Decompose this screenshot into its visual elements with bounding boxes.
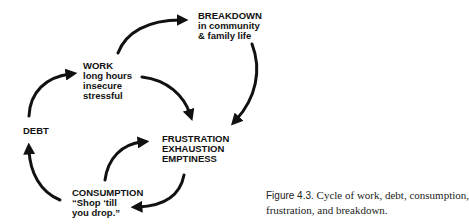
caption-line-1: Figure 4.3. Cycle of work, debt, consump…	[266, 188, 469, 203]
figure-label: Figure 4.3.	[266, 190, 314, 201]
arrow-work-to-breakdown	[118, 20, 181, 53]
node-frustration-line-2: EMPTINESS	[162, 154, 229, 164]
arrow-work-to-frustration	[142, 77, 190, 114]
arrow-debt-to-work	[29, 74, 70, 116]
arrow-consumption-to-frustration	[105, 142, 142, 180]
figure-caption: Figure 4.3. Cycle of work, debt, consump…	[266, 188, 469, 218]
node-debt: DEBT	[23, 126, 49, 136]
node-consumption: CONSUMPTION “Shop ‘till you drop.”	[72, 188, 143, 218]
node-frustration: FRUSTRATION EXHAUSTION EMPTINESS	[162, 134, 229, 164]
arrow-consumption-to-debt	[29, 150, 60, 200]
node-work: WORK long hours insecure stressful	[83, 61, 132, 101]
node-breakdown-line-2: & family life	[198, 31, 262, 41]
node-debt-title: DEBT	[23, 126, 49, 136]
node-breakdown: BREAKDOWN in community & family life	[198, 11, 262, 41]
arrow-frustration-to-consumption	[138, 175, 184, 207]
node-consumption-line-2: you drop.”	[72, 208, 143, 218]
node-work-line-3: stressful	[83, 91, 132, 101]
caption-line-2: frustration, and breakdown.	[266, 203, 469, 218]
caption-text-1: Cycle of work, debt, consumption,	[317, 189, 469, 201]
arrow-breakdown-to-frustration	[236, 44, 257, 120]
